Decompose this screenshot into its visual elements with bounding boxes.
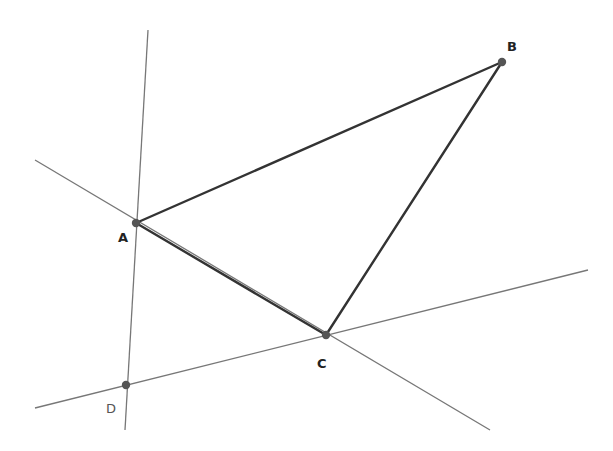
triangle-abc [136,62,502,335]
points [122,58,506,389]
point-C[interactable] [322,331,330,339]
line-through-A-D [125,30,148,430]
segment-AB [136,62,502,223]
segment-AC [136,223,326,335]
label-B: B [507,39,517,54]
label-D: D [106,401,116,416]
point-B[interactable] [498,58,506,66]
point-D[interactable] [122,381,130,389]
geometry-canvas: ABCD [0,0,613,451]
point-A[interactable] [132,219,140,227]
line-through-A-C [35,160,490,430]
segment-BC [326,62,502,335]
point-labels: ABCD [106,39,517,416]
line-through-D-C [35,270,588,408]
label-C: C [317,356,327,371]
label-A: A [118,230,128,245]
